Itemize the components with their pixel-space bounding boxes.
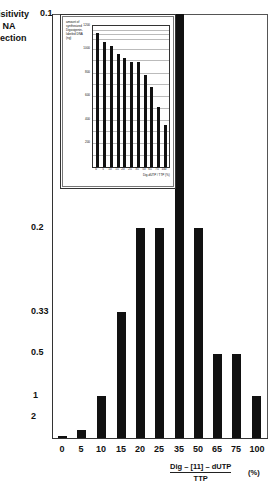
bar-50 [194, 228, 203, 438]
inset-x-axis-label: Dig-dUTP / TTP (%) [143, 173, 170, 177]
inset-x-tick-20: 20 [120, 167, 126, 171]
chart-frame-right [267, 14, 268, 439]
y-tick-0.33: 0.33 [31, 306, 49, 316]
x-axis-line [52, 438, 268, 439]
inset-bar-20 [123, 58, 126, 167]
inset-x-tick-65: 65 [147, 167, 153, 171]
inset-bar-50 [144, 75, 147, 167]
x-tick-75: 75 [226, 444, 246, 454]
y-axis-title-line-3: ection [0, 32, 29, 44]
inset-bar-15 [117, 54, 120, 167]
inset-x-tick-100: 100 [161, 167, 167, 171]
y-tick-0.1: 0.1 [40, 8, 53, 18]
inset-bar-25 [130, 62, 133, 167]
x-tick-50: 50 [188, 444, 208, 454]
x-tick-25: 25 [149, 444, 169, 454]
inset-y-tick-200: 200 [80, 140, 90, 144]
x-axis-label: Dig – [11] – dUTP TTP [170, 462, 231, 483]
inset-x-tick-75: 75 [154, 167, 160, 171]
y-tick-0.2: 0.2 [31, 222, 44, 232]
bar-75 [232, 354, 241, 438]
inset-gridline [93, 34, 169, 35]
inset-y-tick-400: 400 [80, 117, 90, 121]
x-axis-unit: (%) [248, 468, 260, 477]
inset-x-tick-10: 10 [107, 167, 113, 171]
y-tick-1: 1 [33, 390, 38, 400]
inset-bar-100 [164, 125, 167, 167]
inset-bar-5 [103, 42, 106, 167]
inset-x-tick-5: 5 [100, 167, 106, 171]
x-tick-15: 15 [111, 444, 131, 454]
x-tick-5: 5 [71, 444, 91, 454]
inset-bar-0 [96, 33, 99, 167]
inset-y-tick-1000: 1000 [80, 46, 90, 50]
bar-0 [58, 436, 67, 438]
bar-35 [175, 14, 184, 438]
inset-bar-10 [110, 46, 113, 167]
x-tick-20: 20 [130, 444, 150, 454]
bar-15 [117, 312, 126, 438]
inset-bar-35 [137, 62, 140, 167]
bar-20 [136, 228, 145, 438]
inset-bar-75 [157, 107, 160, 167]
inset-gridline [93, 30, 169, 31]
x-axis-label-numerator: Dig – [11] – dUTP [170, 462, 231, 473]
x-axis-label-denominator: TTP [170, 473, 231, 483]
x-tick-100: 100 [247, 444, 267, 454]
inset-bar-65 [150, 87, 153, 167]
x-tick-0: 0 [52, 444, 72, 454]
y-axis-line [52, 14, 53, 439]
bar-10 [97, 396, 106, 438]
inset-x-tick-0: 0 [93, 167, 99, 171]
bar-5 [77, 430, 86, 438]
inset-gridline [93, 39, 169, 40]
inset-y-tick-600: 600 [80, 93, 90, 97]
inset-y-tick-1200: 1200 [80, 23, 90, 27]
x-tick-65: 65 [207, 444, 227, 454]
y-axis-title-line-1: isitivity [0, 8, 29, 20]
inset-y-tick-800: 800 [80, 70, 90, 74]
y-tick-2: 2 [31, 411, 36, 421]
bar-65 [213, 354, 222, 438]
bar-100 [252, 396, 261, 438]
inset-x-tick-25: 25 [127, 167, 133, 171]
x-tick-10: 10 [91, 444, 111, 454]
y-axis-title-line-2: NA [0, 20, 29, 32]
x-tick-35: 35 [169, 444, 189, 454]
bar-25 [155, 228, 164, 438]
inset-plot-area [92, 25, 170, 168]
y-tick-0.5: 0.5 [31, 347, 44, 357]
y-axis-title: isitivity NA ection [0, 8, 29, 44]
inset-x-tick-35: 35 [134, 167, 140, 171]
